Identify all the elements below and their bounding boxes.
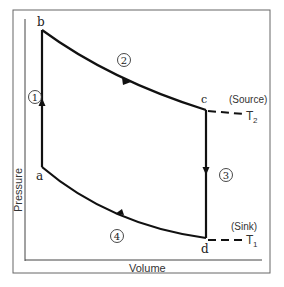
point-c-label: c (201, 93, 207, 106)
y-axis-label: Pressure (12, 168, 24, 212)
process-4-marker: 4 (111, 230, 124, 243)
process-2-marker: 2 (118, 54, 131, 67)
point-d-label: d (201, 242, 209, 256)
source-label: (Source) (229, 94, 267, 105)
process-1-marker: 1 (29, 91, 42, 104)
arrow-left-icon (115, 209, 124, 215)
process-3-marker: 3 (220, 169, 233, 182)
svg-text:3: 3 (223, 170, 229, 181)
source-isotherm-dash (208, 111, 244, 114)
point-b-label: b (37, 15, 45, 29)
carnot-cycle-diagram: Pressure Volume b c d a 1 2 3 4 (Source)… (0, 0, 284, 287)
point-a-label: a (36, 169, 43, 183)
process-4-curve (42, 167, 206, 238)
figure-frame (13, 10, 270, 273)
x-axis-label: Volume (129, 262, 166, 274)
svg-text:1: 1 (32, 92, 38, 103)
source-temp-subscript: 2 (253, 116, 258, 125)
svg-text:4: 4 (114, 231, 120, 242)
process-2-curve (42, 30, 206, 110)
svg-text:2: 2 (121, 55, 127, 66)
sink-label: (Sink) (231, 221, 257, 232)
sink-temp-subscript: 1 (253, 240, 258, 249)
arrow-down-icon (203, 167, 210, 175)
